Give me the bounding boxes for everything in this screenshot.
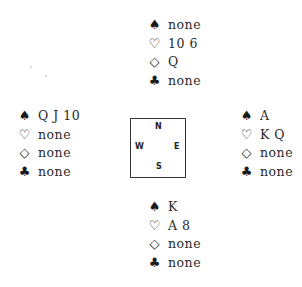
compass-south: S bbox=[156, 162, 162, 171]
south-hearts: A 8 bbox=[168, 217, 190, 236]
diamond-icon: ◇ bbox=[17, 144, 32, 163]
speck bbox=[30, 66, 32, 68]
west-hearts-row: ♡none bbox=[17, 126, 80, 145]
south-hand: ♠K ♡A 8 ◇none ♣none bbox=[147, 198, 201, 272]
north-hearts: 10 6 bbox=[168, 35, 198, 54]
compass-box: N W E S bbox=[130, 118, 186, 178]
compass-east: E bbox=[174, 142, 179, 151]
east-diamonds: none bbox=[260, 144, 293, 163]
club-icon: ♣ bbox=[17, 163, 32, 182]
east-clubs: none bbox=[260, 163, 293, 182]
north-hand: ♠none ♡10 6 ◇Q ♣none bbox=[147, 16, 201, 90]
east-diamonds-row: ◇none bbox=[239, 144, 293, 163]
south-diamonds-row: ◇none bbox=[147, 235, 201, 254]
south-clubs: none bbox=[168, 254, 201, 273]
east-clubs-row: ♣none bbox=[239, 163, 293, 182]
north-hearts-row: ♡10 6 bbox=[147, 35, 201, 54]
south-hearts-row: ♡A 8 bbox=[147, 217, 201, 236]
compass-west: W bbox=[135, 142, 144, 151]
west-diamonds: none bbox=[38, 144, 71, 163]
south-diamonds: none bbox=[168, 235, 201, 254]
compass-north: N bbox=[155, 122, 162, 131]
club-icon: ♣ bbox=[147, 72, 162, 91]
east-spades: A bbox=[260, 107, 270, 126]
south-spades-row: ♠K bbox=[147, 198, 201, 217]
diamond-icon: ◇ bbox=[147, 53, 162, 72]
speck bbox=[45, 75, 47, 77]
west-hearts: none bbox=[38, 126, 71, 145]
spade-icon: ♠ bbox=[239, 107, 254, 126]
south-spades: K bbox=[168, 198, 178, 217]
east-hearts: K Q bbox=[260, 126, 285, 145]
north-clubs: none bbox=[168, 72, 201, 91]
heart-icon: ♡ bbox=[17, 126, 32, 145]
north-diamonds: Q bbox=[168, 53, 179, 72]
diamond-icon: ◇ bbox=[239, 144, 254, 163]
heart-icon: ♡ bbox=[147, 35, 162, 54]
diamond-icon: ◇ bbox=[147, 235, 162, 254]
east-hearts-row: ♡K Q bbox=[239, 126, 293, 145]
west-hand: ♠Q J 10 ♡none ◇none ♣none bbox=[17, 107, 80, 181]
spade-icon: ♠ bbox=[147, 198, 162, 217]
north-spades-row: ♠none bbox=[147, 16, 201, 35]
east-spades-row: ♠A bbox=[239, 107, 293, 126]
spade-icon: ♠ bbox=[17, 107, 32, 126]
north-diamonds-row: ◇Q bbox=[147, 53, 201, 72]
club-icon: ♣ bbox=[147, 254, 162, 273]
west-spades-row: ♠Q J 10 bbox=[17, 107, 80, 126]
east-hand: ♠A ♡K Q ◇none ♣none bbox=[239, 107, 293, 181]
south-clubs-row: ♣none bbox=[147, 254, 201, 273]
club-icon: ♣ bbox=[239, 163, 254, 182]
heart-icon: ♡ bbox=[147, 217, 162, 236]
west-spades: Q J 10 bbox=[38, 107, 80, 126]
north-clubs-row: ♣none bbox=[147, 72, 201, 91]
west-diamonds-row: ◇none bbox=[17, 144, 80, 163]
west-clubs-row: ♣none bbox=[17, 163, 80, 182]
spade-icon: ♠ bbox=[147, 16, 162, 35]
heart-icon: ♡ bbox=[239, 126, 254, 145]
west-clubs: none bbox=[38, 163, 71, 182]
north-spades: none bbox=[168, 16, 201, 35]
